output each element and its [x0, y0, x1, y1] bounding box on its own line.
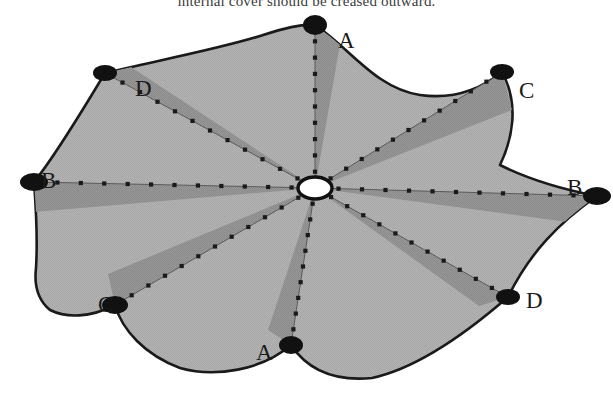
crease-dot [430, 189, 434, 193]
crease-dot [295, 176, 299, 180]
crease-dot [406, 128, 410, 132]
crease-dot [163, 274, 167, 278]
crease-dot [313, 88, 317, 92]
vertex-a-top-label: A [338, 28, 355, 53]
vertex-c-bottom-left-label: C [98, 292, 113, 317]
crease-dot [301, 264, 305, 268]
vertex-c-top-right [490, 64, 514, 80]
crease-pattern-svg: ACBDACBD [0, 0, 613, 399]
crease-dot [311, 202, 315, 206]
crease-dot [313, 104, 317, 108]
vertex-b-left-label: B [41, 168, 56, 193]
crease-dot [102, 181, 106, 185]
crease-dot [458, 268, 462, 272]
crease-dot [484, 80, 488, 84]
crease-dot [196, 183, 200, 187]
vertex-d-top-left [93, 65, 117, 81]
crease-dot [243, 148, 247, 152]
crease-dot [213, 244, 217, 248]
crease-dot [336, 187, 340, 191]
vertex-c-top-right-label: C [519, 78, 534, 103]
crease-dot [313, 56, 317, 60]
crease-dot [263, 215, 267, 219]
crease-dot [391, 138, 395, 142]
crease-dot [361, 213, 365, 217]
crease-dot [173, 109, 177, 113]
vertex-a-bottom-label: A [256, 340, 273, 365]
crease-dot [345, 204, 349, 208]
crease-dot [438, 109, 442, 113]
crease-dot [490, 286, 494, 290]
crease-dot [501, 191, 505, 195]
crease-dot [474, 277, 478, 281]
crease-dot [313, 153, 317, 157]
crease-dot [130, 293, 134, 297]
crease-dot [313, 72, 317, 76]
crease-dot [306, 233, 310, 237]
crease-dot [313, 170, 317, 174]
crease-dot [243, 184, 247, 188]
crease-dot [313, 137, 317, 141]
crease-dot [278, 167, 282, 171]
crease-dot [180, 264, 184, 268]
crease-dot [469, 89, 473, 93]
crease-dot [225, 138, 229, 142]
crease-dot [246, 225, 250, 229]
center-hub [298, 177, 332, 199]
crease-dot [548, 193, 552, 197]
crease-dot [425, 249, 429, 253]
crease-dot [196, 254, 200, 258]
crease-dot [230, 235, 234, 239]
crease-dot [383, 188, 387, 192]
crease-dot [393, 231, 397, 235]
crease-dot [313, 39, 317, 43]
crease-dot [303, 249, 307, 253]
crease-dot [422, 118, 426, 122]
crease-dot [442, 259, 446, 263]
crease-dot [126, 182, 130, 186]
crease-dot [149, 182, 153, 186]
crease-dot [407, 189, 411, 193]
crease-dot [296, 296, 300, 300]
crease-dot [120, 80, 124, 84]
crease-dot [299, 280, 303, 284]
crease-dot [313, 121, 317, 125]
crease-dot [219, 184, 223, 188]
vertex-d-bottom-right [496, 289, 520, 305]
crease-dot [409, 240, 413, 244]
crease-dot [155, 100, 159, 104]
crease-dot [308, 217, 312, 221]
crease-dot [477, 191, 481, 195]
crease-dot [360, 187, 364, 191]
crease-dot [360, 157, 364, 161]
vertex-b-right-label: B [567, 175, 582, 200]
crease-dot [294, 312, 298, 316]
crease-dot [266, 185, 270, 189]
crease-dot [208, 128, 212, 132]
vertex-b-right [583, 187, 611, 205]
vertex-a-top [303, 15, 327, 35]
crease-dot [296, 196, 300, 200]
vertex-d-top-left-label: D [135, 76, 152, 101]
crease-dot [344, 167, 348, 171]
vertex-a-bottom [279, 336, 303, 354]
crease-dot [377, 222, 381, 226]
crease-dot [454, 190, 458, 194]
crease-dot [289, 185, 293, 189]
crease-dot [375, 147, 379, 151]
crease-dot [146, 283, 150, 287]
crease-dot [291, 327, 295, 331]
crease-dot [280, 205, 284, 209]
vertex-d-bottom-right-label: D [526, 288, 543, 313]
crease-dot [172, 183, 176, 187]
crease-pattern-figure: internal cover should be creased outward… [0, 0, 613, 399]
crease-dot [524, 192, 528, 196]
crease-dot [190, 119, 194, 123]
crease-dot [453, 99, 457, 103]
crease-dot [260, 157, 264, 161]
crease-dot [79, 181, 83, 185]
